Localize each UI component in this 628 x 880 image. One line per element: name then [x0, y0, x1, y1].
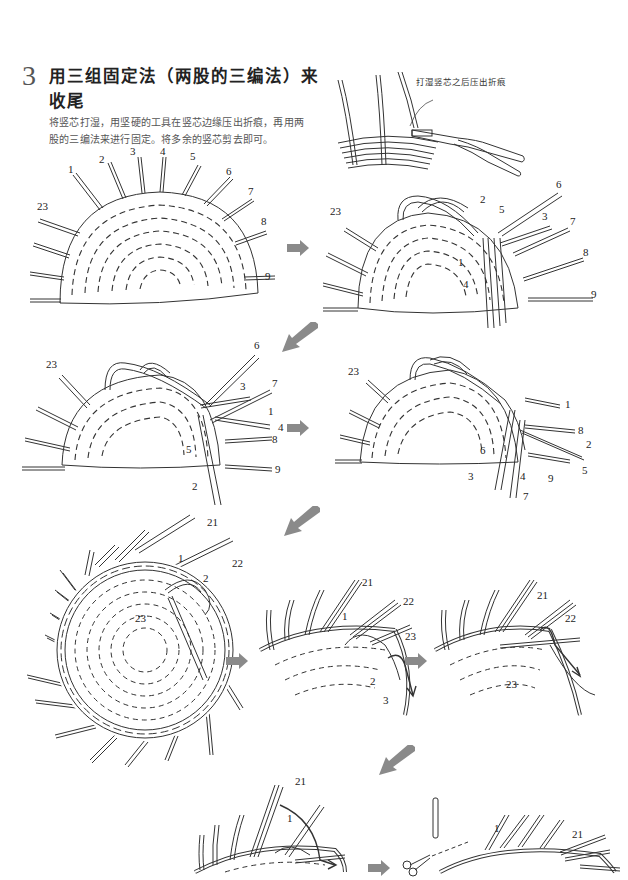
- svg-text:8: 8: [578, 424, 584, 436]
- figure-2-braid-start: 23 2 5 6 3 7 1 8 4 9: [318, 178, 608, 338]
- arrow-down-left-icon: [282, 506, 322, 542]
- figure-4-braid-continue: 23 1 8 2 6 5 9 3 4 7: [320, 350, 615, 505]
- svg-text:23: 23: [506, 678, 518, 690]
- pliers-illustration: 打湿竖芯之后压出折痕: [328, 60, 548, 175]
- svg-text:23: 23: [37, 200, 49, 212]
- svg-text:7: 7: [523, 490, 529, 502]
- figure-9-trim-stakes: 1 21: [400, 790, 628, 872]
- svg-text:6: 6: [254, 339, 260, 351]
- svg-text:21: 21: [362, 576, 373, 588]
- svg-text:1: 1: [565, 398, 571, 410]
- svg-text:9: 9: [548, 472, 554, 484]
- figure-6-braid-end-step1: 21 22 1 23 2 3: [255, 570, 425, 725]
- svg-text:23: 23: [46, 358, 58, 370]
- svg-text:1: 1: [287, 812, 293, 824]
- svg-text:7: 7: [248, 185, 254, 197]
- svg-text:2: 2: [370, 675, 376, 687]
- svg-text:1: 1: [268, 405, 274, 417]
- svg-text:5: 5: [190, 150, 196, 162]
- svg-text:3: 3: [542, 210, 548, 222]
- arrow-down-left-icon: [377, 745, 417, 781]
- svg-text:1: 1: [178, 552, 184, 564]
- svg-text:23: 23: [330, 205, 342, 217]
- step-number: 3: [22, 62, 36, 90]
- scissors-icon: [403, 855, 430, 876]
- svg-text:21: 21: [207, 516, 218, 528]
- svg-text:5: 5: [499, 203, 505, 215]
- svg-text:5: 5: [186, 443, 192, 455]
- arrow-right-icon: [287, 240, 311, 260]
- svg-text:1: 1: [342, 610, 348, 622]
- figure-8-braid-end-step3: 21 1: [195, 765, 365, 872]
- svg-text:21: 21: [572, 828, 583, 840]
- svg-text:4: 4: [160, 145, 166, 157]
- arrow-right-icon: [368, 860, 392, 880]
- svg-text:6: 6: [226, 165, 232, 177]
- figure-1-stakes: 1 2 3 4 5 6 7 8 9 23: [30, 155, 280, 315]
- svg-text:6: 6: [556, 178, 562, 190]
- svg-text:4: 4: [520, 470, 526, 482]
- svg-text:5: 5: [582, 464, 588, 476]
- svg-text:6: 6: [480, 444, 486, 456]
- svg-text:22: 22: [565, 612, 576, 624]
- svg-text:3: 3: [383, 694, 389, 706]
- step-description: 将竖芯打湿，用坚硬的工具在竖芯边缘压出折痕，再用两股的三编法来进行固定。将多余的…: [49, 114, 309, 148]
- svg-text:23: 23: [405, 630, 417, 642]
- arrow-right-icon: [287, 420, 311, 440]
- svg-text:1: 1: [494, 822, 500, 834]
- svg-text:9: 9: [275, 463, 281, 475]
- svg-text:3: 3: [240, 380, 246, 392]
- svg-text:2: 2: [480, 193, 486, 205]
- figure-7-braid-end-step2: 21 22 23: [430, 570, 615, 725]
- svg-text:7: 7: [272, 377, 278, 389]
- svg-text:21: 21: [295, 775, 306, 787]
- figure-3-braid-progress: 23 6 3 7 1 4 8 5 9 2: [10, 335, 290, 505]
- figure-5-circle-braid: 21 22 1 2 23: [15, 510, 255, 770]
- arrow-right-icon: [226, 653, 250, 673]
- svg-text:22: 22: [403, 595, 414, 607]
- svg-text:1: 1: [68, 163, 74, 175]
- svg-text:2: 2: [586, 438, 592, 450]
- svg-text:9: 9: [265, 270, 271, 282]
- svg-text:4: 4: [463, 278, 469, 290]
- arrow-down-left-icon: [280, 322, 320, 358]
- svg-text:4: 4: [278, 421, 284, 433]
- svg-text:8: 8: [272, 433, 278, 445]
- step-title: 用三组固定法（两股的三编法）来收尾: [49, 64, 319, 114]
- svg-text:9: 9: [591, 288, 597, 300]
- svg-text:2: 2: [203, 572, 209, 584]
- arrow-right-icon: [405, 653, 429, 673]
- svg-text:23: 23: [135, 612, 147, 624]
- svg-text:8: 8: [261, 215, 267, 227]
- svg-text:1: 1: [458, 256, 464, 268]
- svg-text:22: 22: [232, 557, 243, 569]
- svg-text:2: 2: [99, 153, 105, 165]
- svg-text:8: 8: [583, 246, 589, 258]
- svg-text:3: 3: [468, 470, 474, 482]
- svg-text:7: 7: [570, 215, 576, 227]
- pliers-callout: 打湿竖芯之后压出折痕: [416, 77, 506, 87]
- svg-text:23: 23: [348, 365, 360, 377]
- svg-text:3: 3: [130, 145, 136, 157]
- svg-text:21: 21: [537, 589, 548, 601]
- svg-text:2: 2: [192, 480, 198, 492]
